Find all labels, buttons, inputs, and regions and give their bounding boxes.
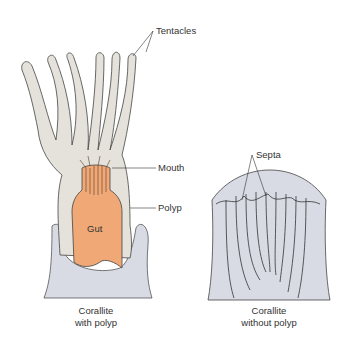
label-gut: Gut	[87, 223, 102, 234]
label-septa: Septa	[256, 149, 281, 160]
caption-with-polyp: Corallite with polyp	[46, 305, 146, 329]
label-mouth: Mouth	[158, 162, 184, 173]
label-polyp: Polyp	[158, 202, 182, 213]
caption-without-polyp: Corallite without polyp	[219, 305, 319, 329]
label-tentacles: Tentacles	[156, 25, 196, 36]
